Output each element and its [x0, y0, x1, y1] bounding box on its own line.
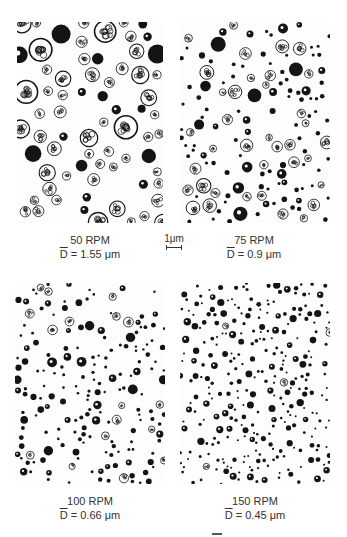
caption-50rpm: 50 RPM D = 1.55 μm — [40, 233, 140, 261]
micrograph-150rpm — [180, 283, 330, 484]
caption-150rpm: 150 RPM D = 0.45 μm — [205, 494, 305, 522]
micrograph-100rpm — [15, 283, 165, 484]
mean-diameter: D = 0.45 μm — [205, 508, 305, 522]
particle-field-75rpm — [180, 22, 330, 223]
particle-field-50rpm — [17, 22, 163, 223]
particle-field-100rpm — [15, 283, 165, 484]
speed-label: 75 RPM — [204, 233, 304, 247]
caption-75rpm: 75 RPM D = 0.9 μm — [204, 233, 304, 261]
speed-label: 150 RPM — [205, 494, 305, 508]
caption-100rpm: 100 RPM D = 0.66 μm — [40, 494, 140, 522]
mean-diameter: D = 0.9 μm — [204, 247, 304, 261]
scale-bar-line — [166, 247, 182, 248]
scale-bar: 1μm — [159, 233, 189, 248]
scan-artifact-mark — [212, 533, 222, 535]
mean-diameter: D = 0.66 μm — [40, 508, 140, 522]
speed-label: 50 RPM — [40, 233, 140, 247]
scale-bar-label: 1μm — [159, 233, 189, 244]
micrograph-75rpm — [180, 22, 330, 223]
particle-field-150rpm — [180, 283, 330, 484]
speed-label: 100 RPM — [40, 494, 140, 508]
mean-diameter: D = 1.55 μm — [40, 247, 140, 261]
micrograph-50rpm — [17, 22, 163, 223]
